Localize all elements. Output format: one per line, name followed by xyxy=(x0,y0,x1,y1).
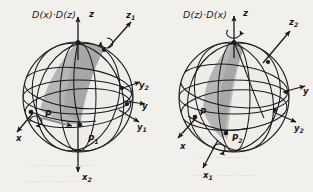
spheres-diagram xyxy=(0,0,313,192)
left-axis-label-y1: y1 xyxy=(137,122,147,133)
right-point-label-P2: P2 xyxy=(232,133,243,144)
left-point-label-P: P xyxy=(45,109,51,119)
right-axis-label-z: z xyxy=(243,8,248,18)
left-axis-label-y: y xyxy=(142,101,148,111)
right-node-y2 xyxy=(273,108,277,112)
right-axis-label-y: y xyxy=(303,86,309,96)
right-axis-label-y2: y2 xyxy=(294,123,304,134)
right-point-label-P: P xyxy=(200,107,206,117)
left-point-label-P1: P1 xyxy=(88,134,99,145)
right-sphere-group xyxy=(173,16,305,168)
left-node-upper xyxy=(102,48,106,52)
left-sphere-group xyxy=(17,17,145,172)
left-panel-formula: D(x)·D(z) xyxy=(32,9,76,20)
left-rotation-curl-z1 xyxy=(101,38,113,48)
right-axis-z2 xyxy=(263,31,290,63)
left-axis-label-x2: x2 xyxy=(82,172,92,183)
left-node-y xyxy=(125,102,129,106)
left-axis-z1 xyxy=(108,22,131,48)
right-axis-label-x1: x1 xyxy=(203,170,213,181)
left-axis-label-x: x xyxy=(16,133,21,143)
right-panel-formula: D(z)·D(x) xyxy=(183,9,227,20)
left-axis-label-z: z xyxy=(89,9,94,19)
right-node-P2 xyxy=(224,131,229,136)
left-axis-label-z1: z1 xyxy=(126,10,135,21)
right-axis-label-z2: z2 xyxy=(289,17,298,28)
right-node-upper xyxy=(266,60,270,64)
right-axis-label-x: x xyxy=(180,141,185,151)
left-axis-label-y2: y2 xyxy=(139,80,149,91)
figure-root: —— ——— —— ——— —— — —— ———— ——— —— —— xyxy=(0,0,313,192)
